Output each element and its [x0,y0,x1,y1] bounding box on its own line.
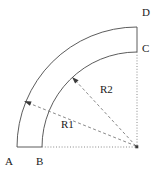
vertex-label-a: A [5,156,13,167]
figure-canvas: A B C D R1 R2 [0,0,158,174]
vertex-label-c: C [142,43,149,54]
radius-label-r2: R2 [100,84,113,95]
elbow-diagram-svg [0,0,158,174]
r2-arrowhead [72,77,79,84]
center-point-marker [135,145,138,148]
outer-arc [17,27,137,147]
inner-arc [42,52,137,147]
vertex-label-d: D [142,7,150,18]
radius-label-r1: R1 [61,119,74,130]
vertex-label-b: B [36,156,43,167]
